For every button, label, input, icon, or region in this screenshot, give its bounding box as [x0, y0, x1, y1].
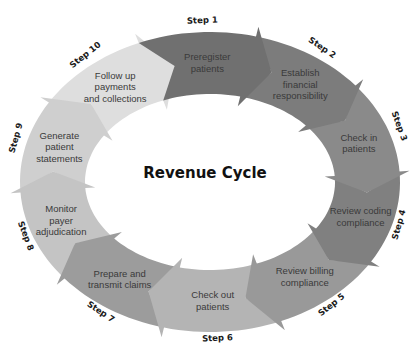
- segment-label-step-4: Review codingcompliance: [330, 205, 392, 228]
- step-label-3: Step 3: [390, 110, 410, 143]
- segment-label-step-1: Preregisterpatients: [184, 51, 230, 74]
- revenue-cycle-diagram: PreregisterpatientsEstablishfinancialres…: [0, 0, 413, 355]
- segment-label-step-7: Prepare andtransmit claims: [88, 268, 152, 291]
- diagram-title: Revenue Cycle: [143, 164, 266, 182]
- segment-label-step-5: Review billingcompliance: [276, 265, 334, 288]
- step-label-9: Step 9: [7, 122, 25, 155]
- step-label-1: Step 1: [187, 15, 218, 26]
- segment-label-step-6: Check outpatients: [191, 289, 234, 312]
- step-label-6: Step 6: [202, 332, 233, 343]
- segment-label-step-3: Check inpatients: [340, 132, 377, 155]
